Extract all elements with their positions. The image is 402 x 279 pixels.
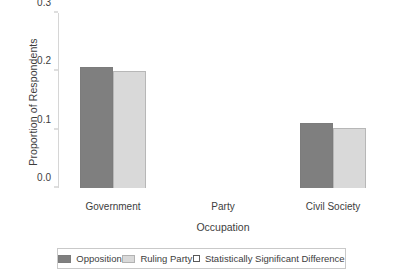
bar-opposition[interactable]	[300, 123, 333, 188]
legend-label: Opposition	[76, 253, 121, 264]
legend-label: Ruling Party	[140, 253, 192, 264]
bar-chart: Proportion of Respondents 0.00.10.20.3 G…	[0, 0, 402, 279]
bar-pair	[80, 13, 146, 188]
y-axis-title: Proportion of Respondents	[27, 12, 39, 192]
x-axis-tick-label: Government	[85, 201, 140, 212]
legend-label: Statistically Significant Difference	[205, 253, 345, 264]
y-axis-tick-label: 0.1	[37, 113, 58, 124]
chart-legend: OppositionRuling PartyStatistically Sign…	[57, 248, 346, 269]
bar-group: Government	[58, 13, 168, 188]
bar-pair	[190, 13, 256, 188]
x-axis-title: Occupation	[58, 221, 388, 233]
legend-item[interactable]: Statistically Significant Difference	[193, 253, 345, 264]
bar-ruling-party[interactable]	[333, 128, 366, 188]
bar-ruling-party[interactable]	[113, 71, 146, 188]
open-square-icon	[193, 255, 200, 262]
legend-item[interactable]: Opposition	[58, 253, 121, 264]
bar-group: Party	[168, 13, 278, 188]
color-swatch-icon	[58, 255, 71, 263]
plot-area: 0.00.10.20.3 GovernmentPartyCivil Societ…	[58, 13, 388, 188]
bar-pair	[300, 13, 366, 188]
y-axis-tick-label: 0.0	[37, 172, 58, 183]
x-axis-tick-label: Party	[211, 201, 234, 212]
color-swatch-icon	[122, 255, 135, 263]
y-axis-tick-label: 0.2	[37, 55, 58, 66]
bar-group: Civil Society	[278, 13, 388, 188]
bar-opposition[interactable]	[80, 67, 113, 188]
legend-item[interactable]: Ruling Party	[122, 253, 192, 264]
x-axis-tick-label: Civil Society	[306, 201, 360, 212]
y-axis-tick-label: 0.3	[37, 0, 58, 8]
